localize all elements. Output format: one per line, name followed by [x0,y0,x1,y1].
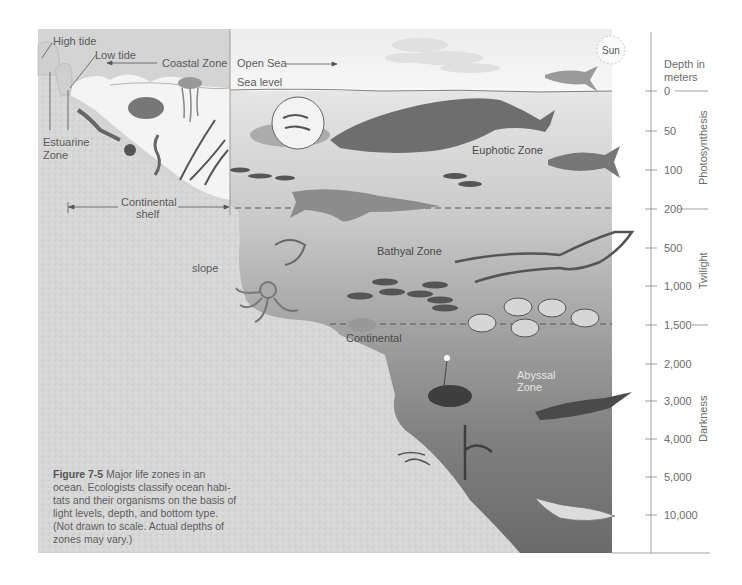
label-abyssal-zone-1: Abyssal [517,369,556,381]
depth-tick-50: 50 [664,125,676,137]
depth-axis-ticks [612,91,710,553]
label-high-tide: High tide [53,35,96,47]
caption-line-4: light levels, depth, and bottom type. [53,507,218,519]
label-abyssal-zone-2: Zone [517,381,542,393]
label-slope: slope [192,262,218,274]
label-sea-level: Sea level [237,76,282,88]
label-continental-rise: Continental [346,332,402,344]
label-estuarine-2: Zone [43,149,68,161]
depth-tick-5000: 5,000 [664,471,692,483]
depth-tick-100: 100 [664,164,682,176]
band-twilight: Twilight [697,252,709,289]
label-low-tide: Low tide [95,49,136,61]
label-bathyal-zone: Bathyal Zone [377,245,442,257]
depth-tick-200: 200 [664,203,682,215]
depth-tick-4000: 4,000 [664,433,692,445]
ocean-zones-diagram: High tide Low tide Coastal Zone Open Sea… [0,0,742,585]
label-continental-shelf-1: Continental [121,196,177,208]
label-euphotic-zone: Euphotic Zone [472,144,543,156]
depth-tick-1000: 1,000 [664,280,692,292]
depth-tick-0: 0 [664,85,670,97]
depth-tick-3000: 3,000 [664,395,692,407]
caption-line-6: zones may vary.) [53,533,132,545]
caption-line-3: tats and their organisms on the basis of [53,494,236,506]
depth-axis-title-2: meters [664,71,698,83]
depth-tick-2000: 2,000 [664,358,692,370]
band-darkness: Darkness [697,396,709,442]
caption-line-2: ocean. Ecologists classify ocean habi- [53,481,230,493]
caption-line-5: (Not drawn to scale. Actual depths of [53,520,224,532]
label-continental-shelf-2: shelf [136,208,159,220]
depth-axis-title-1: Depth in [664,58,705,70]
crab [348,318,376,332]
sea-urchin [124,144,136,156]
figure-number: Figure 7-5 [53,468,103,480]
label-open-sea: Open Sea [237,57,287,69]
depth-tick-10000: 10,000 [664,509,698,521]
band-photosynthesis: Photosynthesis [697,110,709,185]
label-estuarine-1: Estuarine [43,136,89,148]
caption-line-1: Major life zones in an [106,468,205,480]
depth-tick-1500: 1,500 [664,319,692,331]
label-coastal-zone: Coastal Zone [162,57,227,69]
figure-caption: Figure 7-5 Major life zones in an ocean.… [53,468,263,546]
depth-tick-500: 500 [664,242,682,254]
label-sun: Sun [602,45,620,56]
sea-turtle [128,97,164,119]
